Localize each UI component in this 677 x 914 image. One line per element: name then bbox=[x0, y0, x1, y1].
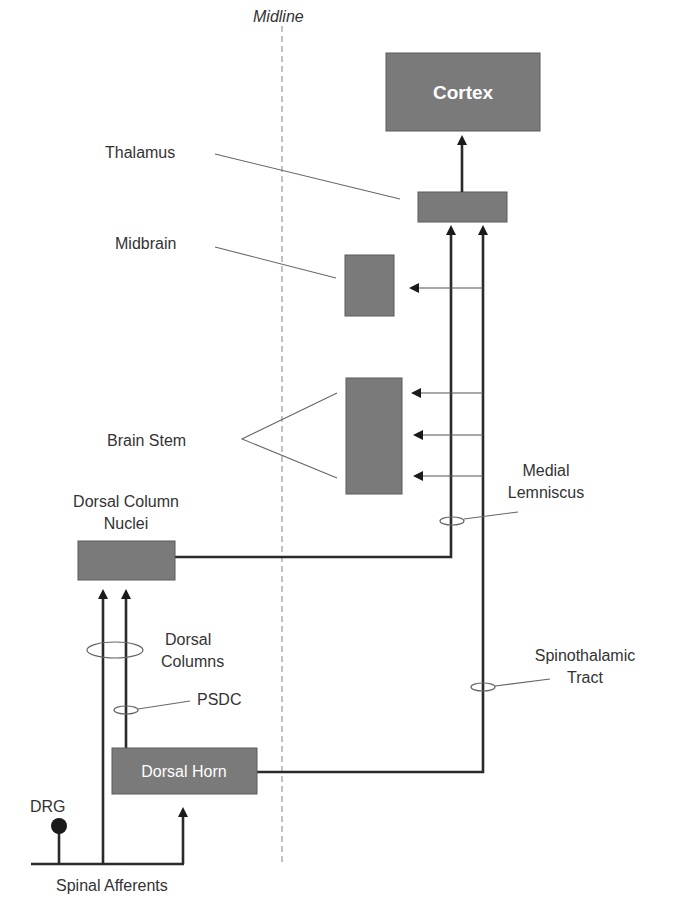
cortex-label: Cortex bbox=[433, 82, 494, 103]
thalamus-box bbox=[418, 192, 507, 222]
midline-label: Midline bbox=[253, 8, 304, 25]
psdc-annotation: PSDC bbox=[114, 691, 241, 714]
medial-lemniscus-annotation: Medial Lemniscus bbox=[440, 462, 584, 525]
medial-lemniscus-label-line1: Medial bbox=[522, 462, 569, 479]
psdc-label: PSDC bbox=[197, 691, 241, 708]
spinal-afferents: DRG Spinal Afferents bbox=[30, 798, 184, 894]
medial-lemniscus-label-line2: Lemniscus bbox=[508, 484, 584, 501]
dorsal-horn-label: Dorsal Horn bbox=[141, 763, 226, 780]
dorsal-columns-ellipse bbox=[87, 642, 143, 658]
dorsal-horn-node: Dorsal Horn bbox=[112, 748, 257, 794]
spinothalamic-label-line1: Spinothalamic bbox=[535, 647, 636, 664]
spinothalamic-annotation: Spinothalamic Tract bbox=[471, 647, 635, 691]
brain-stem-box bbox=[346, 378, 402, 494]
brain-stem-leader-lines bbox=[242, 393, 337, 478]
medial-lemniscus-path bbox=[175, 230, 451, 557]
drg-label: DRG bbox=[30, 798, 66, 815]
cortex-node: Cortex bbox=[386, 53, 540, 131]
thalamus-node: Thalamus bbox=[105, 144, 507, 222]
brain-stem-label: Brain Stem bbox=[107, 432, 186, 449]
dorsal-columns-annotation: Dorsal Columns bbox=[87, 631, 224, 670]
dorsal-columns-label-line1: Dorsal bbox=[165, 631, 211, 648]
medial-lemniscus-leader-line bbox=[464, 512, 518, 519]
thalamus-label: Thalamus bbox=[105, 144, 175, 161]
midline: Midline bbox=[253, 8, 304, 866]
dorsal-column-nuclei-label-line2: Nuclei bbox=[104, 515, 148, 532]
spinothalamic-leader-line bbox=[495, 679, 550, 686]
dorsal-columns-label-line2: Columns bbox=[161, 653, 224, 670]
dorsal-column-nuclei-node: Dorsal Column Nuclei bbox=[73, 493, 179, 580]
thalamus-leader-line bbox=[215, 154, 400, 199]
midbrain-node: Midbrain bbox=[115, 235, 394, 316]
midbrain-box bbox=[345, 255, 394, 316]
dorsal-column-nuclei-label-line1: Dorsal Column bbox=[73, 493, 179, 510]
midbrain-leader-line bbox=[215, 247, 336, 278]
psdc-leader-line bbox=[138, 701, 190, 709]
spinothalamic-label-line2: Tract bbox=[567, 669, 603, 686]
dorsal-column-nuclei-box bbox=[78, 541, 175, 580]
drg-node-dot bbox=[51, 818, 67, 834]
midbrain-label: Midbrain bbox=[115, 235, 176, 252]
brain-stem-node: Brain Stem bbox=[107, 378, 402, 494]
somatosensory-pathway-diagram: Midline Cortex Thalamus Midbrain Brain S… bbox=[0, 0, 677, 914]
spinal-afferents-label: Spinal Afferents bbox=[56, 877, 168, 894]
